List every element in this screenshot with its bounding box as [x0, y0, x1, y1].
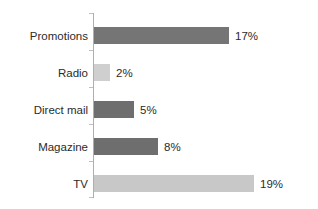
category-label-promotions: Promotions: [0, 29, 88, 43]
bar-group-direct-mail: 5%: [94, 92, 157, 127]
plot-area: Promotions 17% Radio 2% Direct mail 5% M…: [0, 0, 318, 209]
category-label-tv: TV: [0, 177, 88, 191]
bar-row-magazine: Magazine 8%: [0, 129, 318, 164]
bar-value-magazine: 8%: [164, 140, 181, 154]
axis-tick: [89, 13, 93, 14]
bar-group-promotions: 17%: [94, 18, 258, 53]
bar-row-radio: Radio 2%: [0, 55, 318, 90]
bar-group-tv: 19%: [94, 166, 283, 201]
bar-group-magazine: 8%: [94, 129, 181, 164]
bar-value-direct-mail: 5%: [140, 103, 157, 117]
bar-direct-mail[interactable]: [94, 101, 134, 118]
bar-radio[interactable]: [94, 64, 110, 81]
bar-value-radio: 2%: [116, 66, 133, 80]
category-label-radio: Radio: [0, 66, 88, 80]
bar-value-promotions: 17%: [235, 29, 258, 43]
bar-tv[interactable]: [94, 175, 254, 192]
bar-magazine[interactable]: [94, 138, 158, 155]
bar-value-tv: 19%: [260, 177, 283, 191]
bar-promotions[interactable]: [94, 27, 229, 44]
bar-row-promotions: Promotions 17%: [0, 18, 318, 53]
bar-chart: Promotions 17% Radio 2% Direct mail 5% M…: [0, 0, 318, 209]
bar-row-tv: TV 19%: [0, 166, 318, 201]
category-label-direct-mail: Direct mail: [0, 103, 88, 117]
bar-row-direct-mail: Direct mail 5%: [0, 92, 318, 127]
category-label-magazine: Magazine: [0, 140, 88, 154]
bar-group-radio: 2%: [94, 55, 133, 90]
